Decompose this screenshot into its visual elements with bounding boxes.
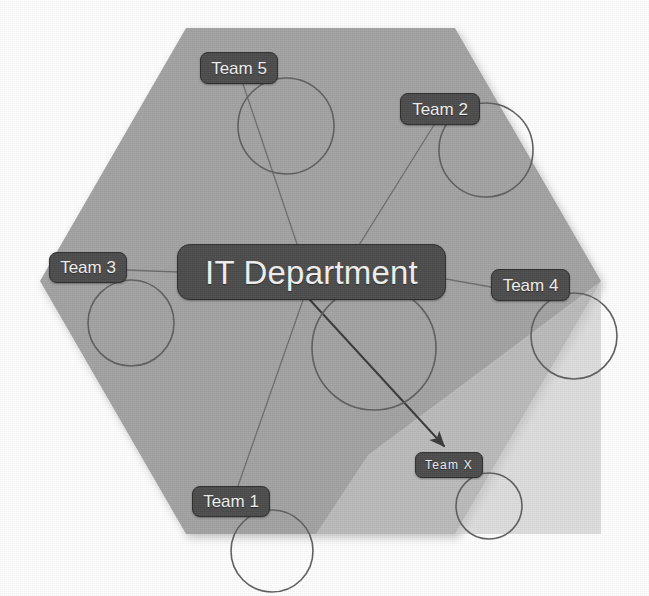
team-2-label: Team 2 [412,101,468,118]
team-2-node[interactable]: Team 2 [400,93,480,125]
team-5-label: Team 5 [211,60,267,77]
it-department-node[interactable]: IT Department [177,244,446,300]
team-1-label: Team 1 [203,493,259,510]
team-3-node[interactable]: Team 3 [49,252,127,283]
team-1-node[interactable]: Team 1 [192,486,270,517]
team-3-label: Team 3 [60,259,116,276]
team-4-node[interactable]: Team 4 [491,269,570,301]
diagram-canvas: IT Department Team 5Team 2Team 3Team 4Te… [0,0,649,596]
team-x-label: Team X [425,459,473,471]
it-department-label: IT Department [205,256,418,289]
team-4-label: Team 4 [503,277,559,294]
team-5-node[interactable]: Team 5 [200,52,278,84]
team-x-node[interactable]: Team X [415,452,483,478]
